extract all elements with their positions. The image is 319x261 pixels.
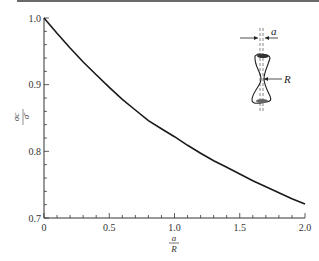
arrowhead-right-icon	[265, 36, 269, 40]
x-tick-label: 2.0	[299, 222, 312, 233]
y-tick-label: 1.0	[29, 13, 42, 24]
axes	[44, 18, 305, 218]
inset-label-a: a	[271, 25, 277, 37]
y-tick-label: 0.8	[29, 146, 42, 157]
y-axis-label: σc σ̄	[11, 109, 31, 125]
svg-text:σc: σc	[11, 113, 21, 121]
inset-specimen-diagram: a R	[240, 25, 291, 112]
x-axis-label-den: R	[170, 244, 177, 254]
x-tick-label: 1.0	[168, 222, 181, 233]
ticks	[44, 18, 305, 218]
x-axis-label: a R	[169, 233, 179, 254]
y-tick-label: 0.7	[29, 213, 42, 224]
y-tick-label: 0.9	[29, 79, 42, 90]
specimen-bottom-face	[256, 99, 268, 103]
y-axis-label-den: σ̄	[21, 112, 31, 119]
chart: 00.51.01.52.00.70.80.91.0 σc σ̄ a R a R	[0, 0, 319, 261]
tick-labels: 00.51.01.52.00.70.80.91.0	[29, 13, 312, 234]
y-axis-label-num: σc	[11, 113, 21, 121]
x-tick-label: 0	[42, 222, 47, 233]
specimen-top-face	[257, 54, 269, 58]
svg-text:σ̄: σ̄	[21, 112, 31, 119]
inset-label-R: R	[283, 73, 291, 85]
series-line	[44, 18, 305, 204]
x-tick-label: 1.5	[234, 222, 247, 233]
arrowhead-left-icon	[254, 36, 258, 40]
x-tick-label: 0.5	[103, 222, 116, 233]
x-axis-label-num: a	[172, 233, 177, 243]
